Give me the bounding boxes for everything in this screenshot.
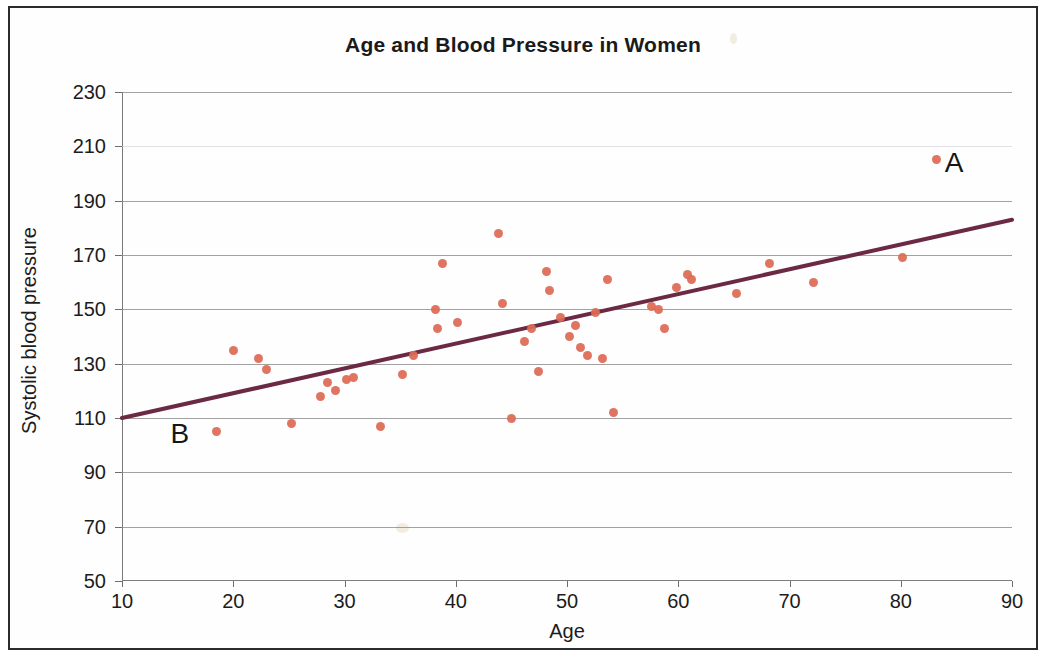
chart-title: Age and Blood Pressure in Women — [0, 33, 1046, 57]
chart-page: Age and Blood Pressure in Women Systolic… — [0, 0, 1046, 659]
y-tick-label: 90 — [50, 461, 106, 484]
gridline — [122, 146, 1012, 147]
x-tick-label: 30 — [315, 590, 375, 613]
y-tick-mark — [115, 309, 122, 310]
x-tick-label: 40 — [426, 590, 486, 613]
data-point — [409, 351, 418, 360]
data-point — [583, 351, 592, 360]
gridline — [122, 309, 1012, 310]
annotation-label-b: B — [171, 418, 190, 450]
x-tick-label: 90 — [982, 590, 1042, 613]
y-tick-mark — [115, 146, 122, 147]
x-axis-title: Age — [122, 620, 1012, 643]
data-point — [527, 324, 536, 333]
x-tick-mark — [567, 581, 568, 587]
y-tick-mark — [115, 255, 122, 256]
gridline — [122, 255, 1012, 256]
x-tick-mark — [901, 581, 902, 587]
y-tick-mark — [115, 92, 122, 93]
data-point — [565, 332, 574, 341]
data-point — [507, 414, 516, 423]
x-tick-mark — [233, 581, 234, 587]
plot-area: AB — [122, 92, 1012, 581]
x-tick-label: 60 — [648, 590, 708, 613]
y-tick-mark — [115, 581, 122, 582]
gridline — [122, 92, 1012, 93]
x-tick-mark — [456, 581, 457, 587]
data-point — [591, 308, 600, 317]
y-tick-label: 190 — [50, 189, 106, 212]
y-tick-label: 210 — [50, 135, 106, 158]
y-tick-mark — [115, 527, 122, 528]
data-point — [603, 275, 612, 284]
x-tick-label: 70 — [760, 590, 820, 613]
data-point — [254, 354, 263, 363]
data-point — [534, 367, 543, 376]
data-point — [262, 365, 271, 374]
data-point — [687, 275, 696, 284]
data-point — [229, 346, 238, 355]
data-point — [316, 392, 325, 401]
x-tick-mark — [122, 581, 123, 587]
data-point — [545, 286, 554, 295]
x-tick-mark — [678, 581, 679, 587]
x-tick-label: 10 — [92, 590, 152, 613]
annotation-label-a: A — [945, 147, 964, 179]
y-tick-mark — [115, 364, 122, 365]
gridline — [122, 527, 1012, 528]
data-point — [376, 422, 385, 431]
data-point — [556, 313, 565, 322]
y-tick-mark — [115, 418, 122, 419]
x-tick-mark — [345, 581, 346, 587]
data-point — [438, 259, 447, 268]
y-tick-label: 150 — [50, 298, 106, 321]
x-tick-mark — [790, 581, 791, 587]
y-tick-label: 70 — [50, 515, 106, 538]
x-tick-label: 80 — [871, 590, 931, 613]
x-tick-label: 20 — [203, 590, 263, 613]
y-tick-label: 110 — [50, 407, 106, 430]
data-point — [598, 354, 607, 363]
data-point — [672, 283, 681, 292]
x-tick-label: 50 — [537, 590, 597, 613]
gridline — [122, 201, 1012, 202]
data-point — [765, 259, 774, 268]
gridline — [122, 472, 1012, 473]
data-point — [494, 229, 503, 238]
data-point — [349, 373, 358, 382]
y-tick-mark — [115, 201, 122, 202]
data-point — [654, 305, 663, 314]
y-tick-label: 130 — [50, 352, 106, 375]
gridline — [122, 418, 1012, 419]
data-point — [732, 289, 741, 298]
data-point — [431, 305, 440, 314]
data-point — [398, 370, 407, 379]
y-tick-label: 170 — [50, 244, 106, 267]
y-tick-label: 230 — [50, 81, 106, 104]
y-tick-mark — [115, 472, 122, 473]
y-axis-title: Systolic blood pressure — [18, 151, 41, 511]
x-tick-mark — [1012, 581, 1013, 587]
data-point — [287, 419, 296, 428]
gridline — [122, 364, 1012, 365]
data-point — [576, 343, 585, 352]
